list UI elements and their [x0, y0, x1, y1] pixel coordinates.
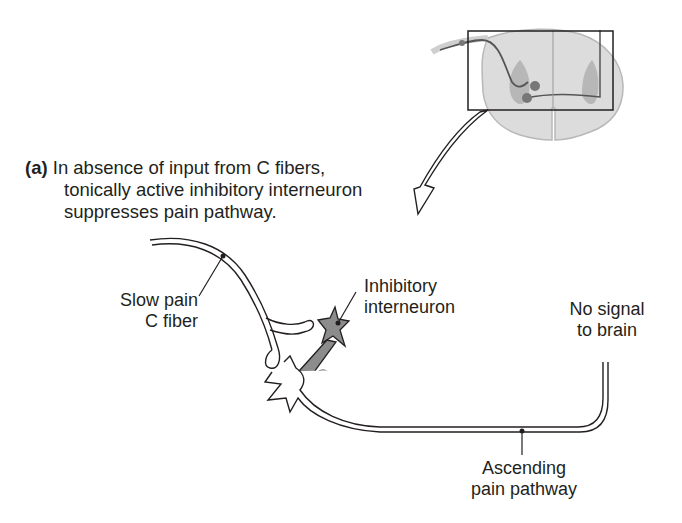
part-tag: (a) — [25, 157, 48, 178]
interneuron-pointer-line — [338, 292, 356, 323]
ascending-label-line-2: pain pathway — [462, 479, 586, 500]
interneuron-label-line-2: interneuron — [364, 297, 455, 318]
slow-pain-c-fiber-label: Slow pain C fiber — [100, 290, 198, 332]
slow-pain-label-line-1: Slow pain — [100, 290, 198, 311]
interneuron-label-line-1: Inhibitory — [364, 276, 455, 297]
no-signal-label: No signal to brain — [555, 299, 659, 341]
caption-line-3: suppresses pain pathway. — [25, 201, 362, 223]
caption-line-2: tonically active inhibitory interneuron — [25, 179, 362, 201]
slow-pain-label-line-2: C fiber — [100, 311, 198, 332]
slow-pain-pointer-line — [199, 256, 223, 296]
ascending-pathway-label: Ascending pain pathway — [462, 458, 586, 500]
caption-line-1: In absence of input from C fibers, — [53, 157, 326, 178]
spinal-cord-inset — [432, 29, 623, 140]
ascending-label-line-1: Ascending — [462, 458, 586, 479]
no-signal-line-2: to brain — [555, 320, 659, 341]
pain-gating-diagram — [0, 0, 682, 523]
zoom-arrow — [414, 110, 488, 214]
no-signal-line-1: No signal — [555, 299, 659, 320]
figure-caption: (a) In absence of input from C fibers, t… — [25, 157, 362, 223]
inhibitory-interneuron-label: Inhibitory interneuron — [364, 276, 455, 318]
